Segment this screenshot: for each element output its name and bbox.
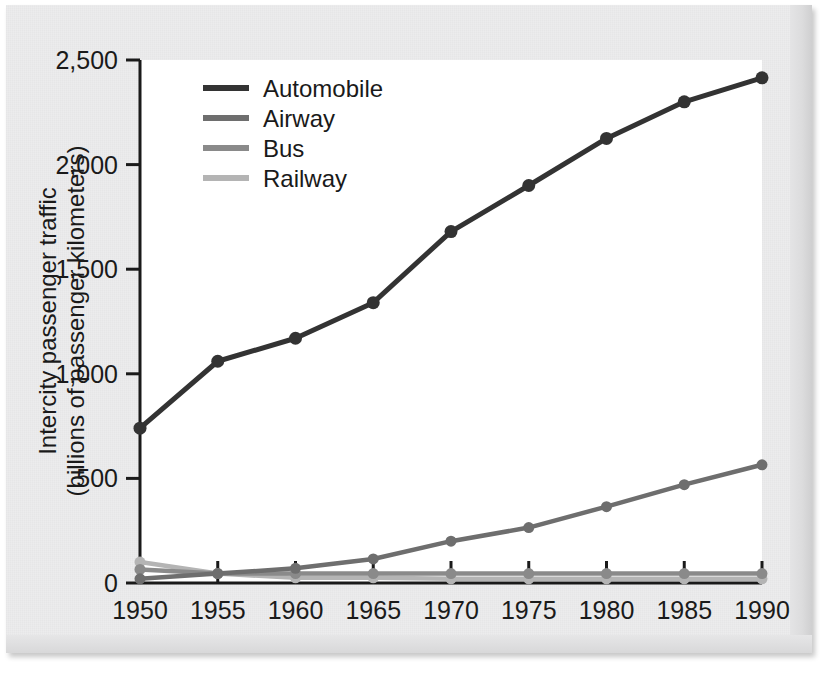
x-axis-tick-label: 1965: [345, 596, 401, 624]
x-axis-tick-labels: 195019551960196519701975198019851990: [112, 596, 790, 624]
data-point: [368, 553, 379, 564]
data-point: [446, 568, 457, 579]
y-axis-ticks: [126, 60, 140, 583]
y-axis-title-line2: (billions of passenger kilometers): [62, 146, 89, 497]
data-point: [212, 568, 223, 579]
data-point: [523, 522, 534, 533]
y-axis-title: Intercity passenger traffic (billions of…: [34, 146, 89, 497]
x-axis-tick-label: 1990: [734, 596, 790, 624]
legend-label: Airway: [263, 105, 335, 132]
data-point: [289, 332, 302, 345]
data-point: [211, 355, 224, 368]
x-axis-tick-label: 1975: [501, 596, 557, 624]
legend-label: Automobile: [263, 75, 383, 102]
data-point: [679, 568, 690, 579]
data-point: [446, 536, 457, 547]
data-point: [523, 568, 534, 579]
data-point: [757, 459, 768, 470]
line-chart: 05001,0001,5002,0002,500 195019551960196…: [0, 0, 829, 674]
x-axis-tick-label: 1980: [579, 596, 635, 624]
x-axis-tick-label: 1955: [190, 596, 246, 624]
data-point: [757, 568, 768, 579]
data-point: [134, 422, 147, 435]
data-point: [601, 501, 612, 512]
data-point: [601, 568, 612, 579]
data-point: [367, 296, 380, 309]
data-point: [445, 225, 458, 238]
y-axis-tick-label: 2,500: [55, 46, 118, 74]
x-axis-tick-label: 1985: [656, 596, 712, 624]
figure-container: 05001,0001,5002,0002,500 195019551960196…: [0, 0, 829, 674]
plot-area-background: [140, 60, 762, 583]
y-axis-tick-label: 0: [104, 569, 118, 597]
data-point: [678, 95, 691, 108]
data-point: [290, 563, 301, 574]
y-axis-title-line1: Intercity passenger traffic: [34, 187, 61, 455]
x-axis-tick-label: 1960: [268, 596, 324, 624]
x-axis-tick-label: 1970: [423, 596, 479, 624]
x-axis-tick-label: 1950: [112, 596, 168, 624]
data-point: [522, 179, 535, 192]
data-point: [756, 71, 769, 84]
legend-label: Railway: [263, 165, 347, 192]
data-point: [135, 573, 146, 584]
data-point: [135, 564, 146, 575]
data-point: [679, 479, 690, 490]
data-point: [600, 132, 613, 145]
legend-label: Bus: [263, 135, 304, 162]
data-point: [368, 568, 379, 579]
